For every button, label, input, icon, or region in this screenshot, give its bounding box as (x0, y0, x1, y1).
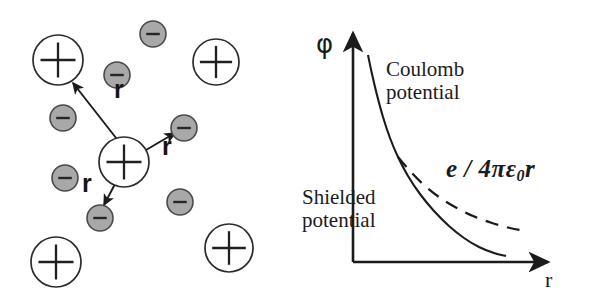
arrow-to-upper-left-ion (73, 83, 120, 143)
x-axis-label: r (545, 268, 552, 292)
shielded-potential-annotation: Shieldedpotential (302, 186, 376, 231)
distance-label-r-right: r (162, 133, 172, 160)
formula-prefix: e / 4πε (446, 155, 516, 182)
formula-subscript: 0 (516, 167, 525, 184)
negative-ion (167, 189, 193, 215)
central-positive-ion (99, 137, 149, 187)
coulomb-potential-annotation: Coulombpotential (386, 58, 464, 103)
coulomb-formula-label: e / 4πε0r (446, 155, 535, 184)
physics-figure: r r r φ r Coulombpotential Shieldedpoten… (0, 0, 596, 308)
distance-label-r-lower: r (82, 170, 92, 197)
potential-plot-svg (298, 0, 596, 308)
formula-suffix: r (525, 155, 535, 182)
y-axis-label: φ (316, 30, 333, 58)
positive-ion (33, 35, 83, 85)
arrow-to-lower-electron (104, 184, 115, 205)
distance-label-r-upper: r (114, 76, 124, 103)
negative-ion (140, 21, 166, 47)
negative-ion (87, 205, 113, 231)
negative-ion (171, 115, 197, 141)
positive-ion (31, 237, 81, 287)
negative-ion (50, 105, 76, 131)
graph-panel: φ r Coulombpotential Shieldedpotential e… (298, 0, 596, 308)
ion-cloud-panel: r r r (0, 0, 298, 308)
ion-cloud-svg (0, 0, 298, 308)
negative-ion (52, 165, 78, 191)
positive-ion (205, 224, 253, 272)
positive-ions-group (31, 35, 253, 287)
positive-ion (193, 39, 239, 85)
